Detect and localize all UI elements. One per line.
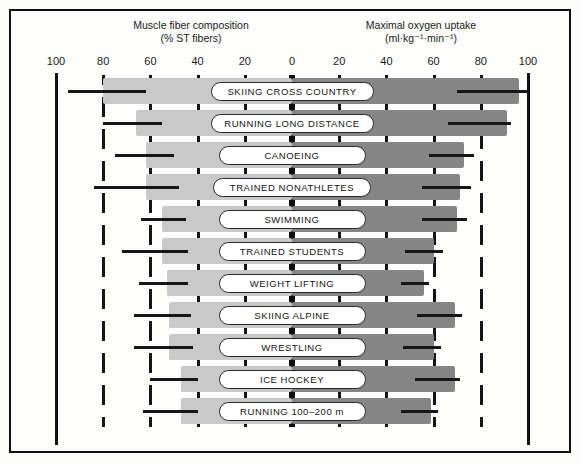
axis-tick-label: 40 xyxy=(380,55,392,67)
gridline-tick xyxy=(149,299,152,309)
axis-tick-label: 40 xyxy=(191,55,203,67)
chart-row: RUNNING 100–200 m xyxy=(11,395,573,427)
chart-row: SWIMMING xyxy=(11,203,573,235)
gridline-tick xyxy=(480,299,483,309)
gridline-tick xyxy=(102,193,105,203)
category-label: RUNNING LONG DISTANCE xyxy=(224,118,359,129)
right-range-line xyxy=(415,378,460,381)
left-range-line xyxy=(68,90,146,93)
category-label: SWIMMING xyxy=(264,214,319,225)
category-label-capsule: SKIING CROSS COUNTRY xyxy=(211,82,374,101)
right-range-line xyxy=(417,314,462,317)
gridline-tick xyxy=(480,139,483,149)
chart-screenshot: Muscle fiber composition (% ST fibers) M… xyxy=(0,0,581,463)
gridline-tick xyxy=(433,267,436,277)
chart-row: ICE HOCKEY xyxy=(11,363,573,395)
gridline-tick xyxy=(102,107,105,117)
left-range-line xyxy=(103,122,162,125)
axis-tick-label: 60 xyxy=(144,55,156,67)
category-label: TRAINED NONATHLETES xyxy=(230,182,354,193)
gridline-tick xyxy=(102,235,105,245)
gridline-tick xyxy=(149,385,152,395)
gridline-tick xyxy=(149,289,152,299)
gridline-tick xyxy=(149,257,152,267)
gridline-tick xyxy=(102,353,105,363)
category-label: SKIING ALPINE xyxy=(254,310,329,321)
gridline-tick xyxy=(149,395,152,405)
category-label-capsule: RUNNING LONG DISTANCE xyxy=(211,114,374,133)
gridline-tick xyxy=(102,289,105,299)
left-range-line xyxy=(141,218,186,221)
category-label-capsule: WRESTLING xyxy=(219,338,366,357)
gridline-tick xyxy=(480,385,483,395)
right-range-line xyxy=(429,154,474,157)
gridline-tick xyxy=(149,417,152,427)
right-range-line xyxy=(401,410,439,413)
right-range-line xyxy=(422,186,472,189)
gridline-tick xyxy=(480,235,483,245)
gridline-tick xyxy=(102,161,105,171)
axis-tick-label: 100 xyxy=(519,55,537,67)
gridline-tick xyxy=(149,267,152,277)
axis-tick-label: 80 xyxy=(475,55,487,67)
chart-row: WRESTLING xyxy=(11,331,573,363)
gridline-tick xyxy=(102,257,105,267)
right-range-line xyxy=(405,250,443,253)
gridline-tick xyxy=(102,129,105,139)
category-label-capsule: CANOEING xyxy=(219,146,366,165)
left-range-line xyxy=(122,250,188,253)
axis-tick-label: 0 xyxy=(289,55,295,67)
gridline-tick xyxy=(149,353,152,363)
gridline-tick xyxy=(102,171,105,181)
gridline-tick xyxy=(149,203,152,213)
gridline-tick xyxy=(102,203,105,213)
left-range-line xyxy=(134,314,191,317)
category-label-capsule: TRAINED NONATHLETES xyxy=(213,178,371,197)
gridline-tick xyxy=(480,321,483,331)
chart-row: RUNNING LONG DISTANCE xyxy=(11,107,573,139)
chart-row: CANOEING xyxy=(11,139,573,171)
gridline-tick xyxy=(433,289,436,299)
gridline-tick xyxy=(102,331,105,341)
category-label-capsule: SWIMMING xyxy=(219,210,366,229)
category-label: CANOEING xyxy=(264,150,319,161)
category-label: SKIING CROSS COUNTRY xyxy=(227,86,356,97)
gridline-tick xyxy=(102,385,105,395)
left-range-line xyxy=(115,154,174,157)
gridline-tick xyxy=(149,321,152,331)
chart-frame: Muscle fiber composition (% ST fibers) M… xyxy=(9,9,571,453)
left-range-line xyxy=(150,378,197,381)
left-range-line xyxy=(139,282,189,285)
category-label-capsule: WEIGHT LIFTING xyxy=(219,274,366,293)
left-range-line xyxy=(143,410,197,413)
gridline-tick xyxy=(102,417,105,427)
right-range-line xyxy=(401,282,429,285)
gridline-tick xyxy=(149,235,152,245)
gridline-tick xyxy=(102,395,105,405)
axis-tick-label: 80 xyxy=(97,55,109,67)
right-range-line xyxy=(448,122,512,125)
gridline-tick xyxy=(480,257,483,267)
gridline-tick xyxy=(480,203,483,213)
chart-row: WEIGHT LIFTING xyxy=(11,267,573,299)
gridline-tick xyxy=(149,225,152,235)
category-label-capsule: ICE HOCKEY xyxy=(219,370,366,389)
gridline-tick xyxy=(102,299,105,309)
right-range-line xyxy=(403,346,441,349)
chart-row: SKIING ALPINE xyxy=(11,299,573,331)
gridline-tick xyxy=(480,363,483,373)
left-range-line xyxy=(134,346,193,349)
gridline-tick xyxy=(480,161,483,171)
plot-area: 10080604020020406080100SKIING CROSS COUN… xyxy=(11,11,573,455)
right-range-line xyxy=(422,218,467,221)
gridline-tick xyxy=(102,267,105,277)
gridline-tick xyxy=(480,417,483,427)
gridline-tick xyxy=(102,321,105,331)
gridline-tick xyxy=(480,289,483,299)
gridline-tick xyxy=(102,363,105,373)
gridline-tick xyxy=(102,225,105,235)
gridline-tick xyxy=(433,395,436,405)
category-label-capsule: RUNNING 100–200 m xyxy=(219,402,366,421)
category-label: WEIGHT LIFTING xyxy=(250,278,335,289)
chart-row: TRAINED STUDENTS xyxy=(11,235,573,267)
